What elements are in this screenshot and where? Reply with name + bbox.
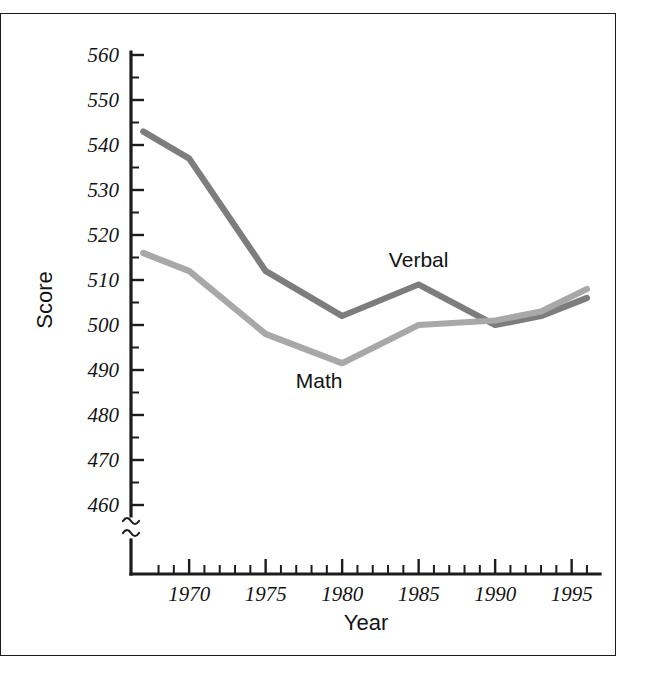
y-tick-label: 530	[88, 178, 120, 202]
y-tick-label: 480	[88, 403, 120, 427]
y-tick-label: 500	[88, 313, 120, 337]
series-line-verbal	[143, 132, 587, 326]
figure-root: 460470480490500510520530540550560 197019…	[0, 0, 648, 678]
series-annotation-verbal: Verbal	[389, 248, 449, 271]
y-axis-ticks	[131, 55, 144, 505]
y-tick-label: 550	[88, 88, 120, 112]
y-tick-label: 470	[88, 448, 120, 472]
x-tick-label: 1970	[168, 582, 211, 606]
x-axis-tick-labels: 197019751980198519901995	[168, 582, 593, 606]
x-axis-title: Year	[344, 610, 388, 635]
y-axis-title: Score	[32, 271, 57, 328]
x-tick-label: 1980	[321, 582, 364, 606]
series-annotations: VerbalMath	[296, 248, 449, 393]
series-annotation-math: Math	[296, 369, 343, 392]
y-tick-label: 490	[88, 358, 120, 382]
y-tick-label: 510	[88, 268, 120, 292]
x-axis-ticks	[159, 559, 587, 574]
x-tick-label: 1995	[551, 582, 593, 606]
y-axis-break-icon	[123, 518, 139, 536]
series-lines	[143, 132, 587, 364]
line-chart: 460470480490500510520530540550560 197019…	[0, 0, 648, 678]
x-tick-label: 1975	[245, 582, 287, 606]
y-tick-label: 460	[88, 493, 120, 517]
y-tick-label: 560	[88, 43, 120, 67]
x-tick-label: 1990	[474, 582, 517, 606]
y-tick-label: 520	[88, 223, 120, 247]
y-axis-tick-labels: 460470480490500510520530540550560	[88, 43, 120, 517]
x-tick-label: 1985	[398, 582, 440, 606]
y-tick-label: 540	[88, 133, 120, 157]
